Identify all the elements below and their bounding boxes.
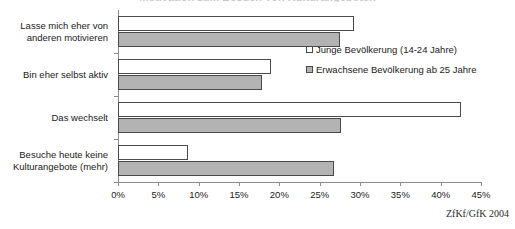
x-axis-tick-label: 45% <box>461 189 501 200</box>
y-axis-tick <box>114 139 118 140</box>
x-axis-tick-label: 20% <box>259 189 299 200</box>
category-label-line: Das wechselt <box>0 112 114 124</box>
chart-container: Motivation zum Besuch von Kulturangebote… <box>0 0 515 229</box>
chart-legend: Junge Bevölkerung (14-24 Jahre) Erwachse… <box>306 44 506 83</box>
x-axis-tick <box>199 182 200 186</box>
legend-label-adult: Erwachsene Bevölkerung ab 25 Jahre <box>316 64 506 76</box>
legend-label-young: Junge Bevölkerung (14-24 Jahre) <box>316 44 506 56</box>
x-axis-tick <box>158 182 159 186</box>
x-axis-tick-label: 5% <box>138 189 178 200</box>
x-axis-tick-label: 25% <box>300 189 340 200</box>
category-label: Lasse mich eher vonanderen motivieren <box>0 20 114 44</box>
legend-swatch-young-icon <box>306 46 313 53</box>
bar-young <box>118 102 461 117</box>
bar-adult <box>118 161 334 176</box>
legend-item-young: Junge Bevölkerung (14-24 Jahre) <box>306 44 506 56</box>
x-axis-tick-label: 30% <box>340 189 380 200</box>
category-label-line: Besuche heute keine <box>0 149 114 161</box>
category-label: Das wechselt <box>0 112 114 124</box>
legend-swatch-adult-icon <box>306 66 313 73</box>
x-axis-tick <box>441 182 442 186</box>
x-axis-tick-label: 10% <box>179 189 219 200</box>
x-axis-tick-label: 35% <box>380 189 420 200</box>
y-axis-tick <box>114 53 118 54</box>
category-label: Bin eher selbst aktiv <box>0 69 114 81</box>
x-axis-tick-label: 15% <box>219 189 259 200</box>
x-axis-tick <box>279 182 280 186</box>
source-attribution: ZfKf/GfK 2004 <box>446 208 509 219</box>
chart-title-remnant: Motivation zum Besuch von Kulturangebote… <box>0 0 515 2</box>
bar-young <box>118 59 271 74</box>
x-axis-tick <box>360 182 361 186</box>
category-label: Besuche heute keineKulturangebote (mehr) <box>0 149 114 173</box>
x-axis-tick-label: 40% <box>421 189 461 200</box>
category-label-line: Kulturangebote (mehr) <box>0 161 114 173</box>
category-label-line: anderen motivieren <box>0 32 114 44</box>
x-axis-tick <box>118 182 119 186</box>
x-axis-tick-label: 0% <box>98 189 138 200</box>
y-axis-tick <box>114 96 118 97</box>
x-axis-tick <box>239 182 240 186</box>
category-label-line: Bin eher selbst aktiv <box>0 69 114 81</box>
bar-adult <box>118 118 341 133</box>
legend-item-adult: Erwachsene Bevölkerung ab 25 Jahre <box>306 64 506 76</box>
x-axis-tick <box>320 182 321 186</box>
x-axis-tick <box>481 182 482 186</box>
bar-adult <box>118 75 262 90</box>
x-axis-tick <box>400 182 401 186</box>
bar-young <box>118 145 188 160</box>
bar-young <box>118 16 354 31</box>
category-label-line: Lasse mich eher von <box>0 20 114 32</box>
x-axis-line <box>118 182 481 183</box>
